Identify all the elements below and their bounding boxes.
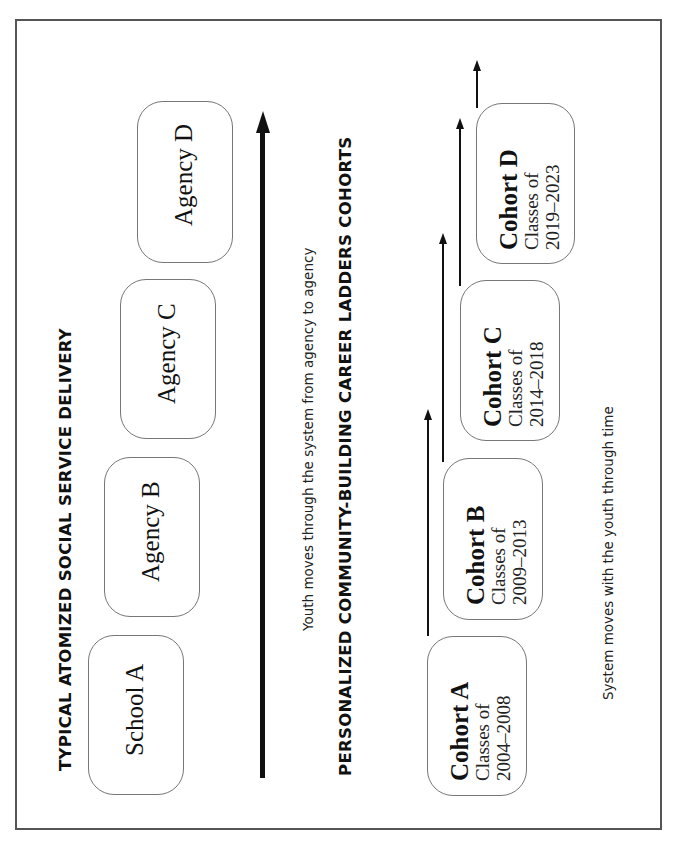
cohort-c-years: 2014–2018 [526,326,547,427]
agency-c-label: Agency C [153,303,181,404]
cohort-a-years: 2004–2008 [493,682,514,781]
cohort-d-arrow-shaft [476,68,478,108]
agency-b-box: Agency B [104,457,200,617]
bottom-section-title: PERSONALIZED COMMUNITY-BUILDING CAREER L… [336,136,355,776]
school-a-box: School A [88,635,184,795]
cohort-d-classes-label: Classes of [521,149,542,250]
cohort-c-name: Cohort C [481,326,505,427]
cohort-c-text: Cohort C Classes of 2014–2018 [481,326,547,427]
cohort-b-classes-label: Classes of [488,506,509,605]
cohort-b-box: Cohort B Classes of 2009–2013 [443,458,543,620]
agency-d-label: Agency D [170,124,198,226]
cohort-a-arrow-shaft [427,418,429,636]
cohort-d-text: Cohort D Classes of 2019–2023 [497,149,563,250]
cohort-b-arrow-head-icon [439,233,447,244]
agency-d-box: Agency D [137,101,233,263]
youth-progress-arrow-head-icon [256,111,270,133]
cohort-b-name: Cohort B [464,506,488,605]
top-section-title: TYPICAL ATOMIZED SOCIAL SERVICE DELIVERY [56,328,75,771]
school-a-label: School A [121,664,149,756]
agency-b-label: Agency B [137,481,165,582]
cohort-c-classes-label: Classes of [505,326,526,427]
bottom-section-caption: System moves with the youth through time [600,406,616,700]
cohort-a-arrow-head-icon [424,409,432,420]
agency-c-box: Agency C [120,279,216,439]
top-section-caption: Youth moves through the system from agen… [300,248,316,631]
cohort-a-box: Cohort A Classes of 2004–2008 [427,636,527,796]
cohort-d-name: Cohort D [497,149,521,250]
cohort-a-classes-label: Classes of [472,682,493,781]
cohort-c-arrow-head-icon [456,118,464,129]
cohort-b-arrow-shaft [442,242,444,462]
cohort-c-arrow-shaft [459,126,461,286]
cohort-d-box: Cohort D Classes of 2019–2023 [476,103,575,264]
cohort-a-text: Cohort A Classes of 2004–2008 [448,682,514,781]
cohort-d-years: 2019–2023 [542,149,563,250]
cohort-a-name: Cohort A [448,682,472,781]
cohort-b-years: 2009–2013 [509,506,530,605]
youth-progress-arrow-shaft [260,130,265,778]
cohort-b-text: Cohort B Classes of 2009–2013 [464,506,530,605]
cohort-d-arrow-head-icon [473,60,481,71]
cohort-c-box: Cohort C Classes of 2014–2018 [460,280,560,441]
